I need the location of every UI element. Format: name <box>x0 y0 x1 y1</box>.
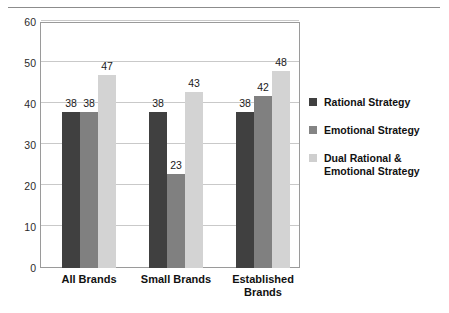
y-tick-label-60: 60 <box>2 17 36 27</box>
x-axis: All BrandsSmall BrandsEstablished Brands <box>40 273 300 313</box>
y-tick-label-30: 30 <box>2 140 36 150</box>
y-axis: 0102030405060 <box>0 22 36 268</box>
top-divider-rule <box>8 7 440 8</box>
y-tick-label-0: 0 <box>2 263 36 273</box>
bar[interactable] <box>98 75 116 268</box>
bar[interactable] <box>236 112 254 268</box>
y-tick-label-10: 10 <box>2 222 36 232</box>
y-tick-label-40: 40 <box>2 99 36 109</box>
legend-swatch-icon <box>309 126 317 134</box>
bar-value-label: 48 <box>268 57 294 68</box>
legend-item[interactable]: Dual Rational & Emotional Strategy <box>309 152 445 178</box>
bars-layer: 383847382343384248 <box>40 22 300 268</box>
x-tick-label: Established Brands <box>215 273 311 299</box>
legend-label: Rational Strategy <box>324 96 445 109</box>
bar-value-label: 47 <box>94 61 120 72</box>
legend-label: Dual Rational & Emotional Strategy <box>324 152 445 178</box>
bar[interactable] <box>272 71 290 268</box>
y-tick-label-50: 50 <box>2 58 36 68</box>
gridline-60 <box>41 20 299 21</box>
bar-group: 383847 <box>62 22 116 268</box>
legend-swatch-icon <box>309 98 317 106</box>
y-tick-label-20: 20 <box>2 181 36 191</box>
bar[interactable] <box>254 96 272 268</box>
bar-value-label: 38 <box>145 98 171 109</box>
legend-label: Emotional Strategy <box>324 124 445 137</box>
bar[interactable] <box>167 174 185 268</box>
chart-legend: Rational StrategyEmotional StrategyDual … <box>309 96 445 193</box>
x-tick-label: Small Brands <box>128 273 224 286</box>
legend-item[interactable]: Emotional Strategy <box>309 124 445 137</box>
bar-group: 382343 <box>149 22 203 268</box>
bar-group: 384248 <box>236 22 290 268</box>
bar[interactable] <box>149 112 167 268</box>
bar[interactable] <box>80 112 98 268</box>
x-tick-label: All Brands <box>41 273 137 286</box>
bar[interactable] <box>185 92 203 268</box>
bar-chart-figure: 0102030405060 383847382343384248 All Bra… <box>0 0 449 313</box>
bar-value-label: 43 <box>181 78 207 89</box>
legend-item[interactable]: Rational Strategy <box>309 96 445 109</box>
legend-swatch-icon <box>309 154 317 162</box>
bar[interactable] <box>62 112 80 268</box>
